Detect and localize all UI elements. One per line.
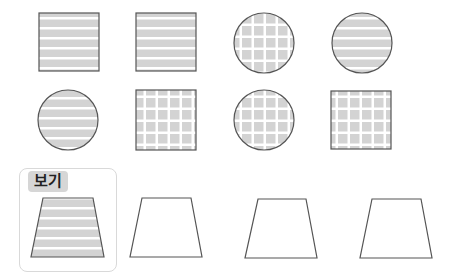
circle-striped	[38, 90, 98, 150]
square-striped	[136, 13, 196, 71]
trapezoid-empty	[360, 199, 432, 258]
square-striped	[39, 13, 99, 71]
shapes-canvas	[0, 0, 452, 276]
trapezoid-empty	[130, 198, 202, 257]
trapezoid-empty	[245, 199, 317, 258]
trapezoid-striped-example	[31, 198, 104, 257]
square-grid	[331, 91, 391, 149]
circle-grid	[234, 13, 294, 73]
circle-grid	[234, 90, 294, 150]
square-grid	[136, 90, 196, 150]
circle-striped	[332, 13, 392, 73]
